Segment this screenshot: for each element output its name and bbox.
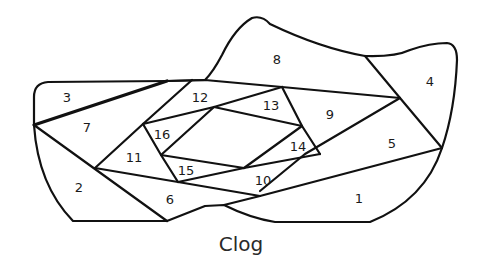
region-label-9: 9 [326,107,334,122]
region-label-16: 16 [154,127,171,142]
region-label-1: 1 [355,191,363,206]
edge-7-2 [34,125,167,221]
region-label-6: 6 [166,192,174,207]
region-label-12: 12 [192,90,209,105]
edge-13 [214,107,302,126]
region-label-10: 10 [255,173,272,188]
region-label-11: 11 [126,150,143,165]
region-label-5: 5 [388,136,396,151]
region-label-13: 13 [263,98,280,113]
edge-14-10 [178,154,320,182]
region-label-14: 14 [290,139,307,154]
region-label-4: 4 [426,74,434,89]
region-label-2: 2 [75,180,83,195]
figure-caption: Clog [0,232,482,256]
region-label-8: 8 [273,52,281,67]
region-labels: 12345678910111213141516 [63,52,434,207]
region-label-7: 7 [83,120,91,135]
edge-3-7 [34,81,167,125]
edge-15 [161,155,244,168]
edge-8-4 [365,56,442,148]
clog-outline [34,17,457,222]
region-label-15: 15 [178,163,195,178]
region-label-3: 3 [63,90,71,105]
